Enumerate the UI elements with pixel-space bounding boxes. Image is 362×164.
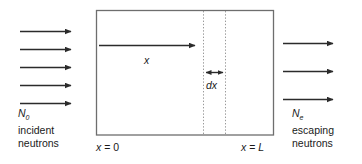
incident-neutron-arrows [20, 32, 71, 104]
slab-rectangle [97, 11, 274, 136]
end-value: L [258, 141, 264, 153]
escaping-line2: neutrons [292, 137, 333, 149]
incident-line1: incident [18, 124, 54, 136]
incident-symbol: N [18, 107, 26, 119]
incident-line2: neutrons [18, 137, 59, 149]
thickness-label: dx [206, 79, 217, 92]
escaping-neutron-label: Ne escaping neutrons [292, 107, 334, 150]
origin-equals: = [101, 141, 113, 153]
end-equals: = [246, 141, 258, 153]
escaping-line1: escaping [292, 124, 334, 136]
escaping-subscript: e [300, 114, 304, 121]
origin-axis-label: x = 0 [96, 141, 119, 154]
escaping-symbol: N [292, 107, 300, 119]
neutron-attenuation-figure: x dx N0 incident neutrons Ne escaping ne… [0, 0, 362, 164]
incident-subscript: 0 [26, 114, 30, 121]
escaping-neutron-arrows [283, 44, 333, 100]
incident-neutron-label: N0 incident neutrons [18, 107, 59, 150]
depth-label: x [144, 54, 149, 67]
origin-value: 0 [113, 141, 119, 153]
end-axis-label: x = L [241, 141, 264, 154]
